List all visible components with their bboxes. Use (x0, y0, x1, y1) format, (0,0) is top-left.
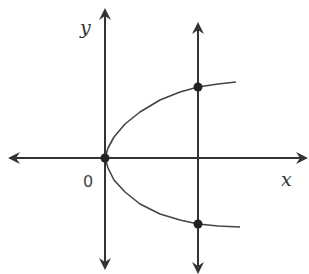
y-axis-label: y (80, 18, 91, 37)
lower-intersection-point (194, 220, 203, 229)
parabola-curve (105, 82, 240, 227)
parabola-diagram (0, 0, 309, 274)
upper-intersection-point (194, 83, 203, 92)
x-axis-label: x (281, 170, 292, 189)
origin-point (101, 154, 110, 163)
origin-label: 0 (83, 174, 93, 190)
